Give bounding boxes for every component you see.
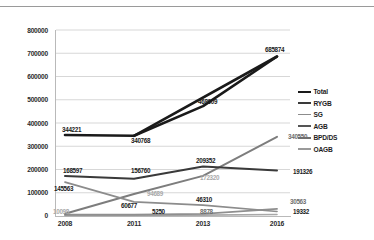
data-label-rygb-2016: 191326 bbox=[293, 168, 312, 175]
data-label-sg-2011: 60677 bbox=[121, 202, 137, 209]
legend-label-bpdds: BPD/DS bbox=[314, 134, 338, 141]
series-line-total bbox=[65, 57, 277, 136]
legend-item-bpdds: BPD/DS bbox=[298, 132, 372, 144]
legend-swatch-oagb bbox=[298, 148, 311, 150]
x-axis-tick-2016: 2016 bbox=[257, 220, 297, 227]
data-label-total-2013: 468609 bbox=[198, 98, 217, 105]
data-label-rygb-2011: 156760 bbox=[131, 167, 150, 174]
chart-legend: Total RYGB SG AGB BPD/DS OAGB bbox=[298, 86, 372, 155]
x-axis-tick-2008: 2008 bbox=[45, 220, 85, 227]
legend-label-rygb: RYGB bbox=[314, 100, 332, 107]
data-label-rygb-2008: 168597 bbox=[63, 167, 82, 174]
legend-item-agb: AGB bbox=[298, 121, 372, 133]
legend-swatch-total bbox=[298, 91, 311, 93]
data-label-sg-2016: 19332 bbox=[293, 208, 309, 215]
x-axis-tick-2011: 2011 bbox=[114, 220, 154, 227]
data-label-total-2016: 685874 bbox=[265, 46, 284, 53]
legend-label-total: Total bbox=[314, 88, 328, 95]
data-label-bpdds-2013: 8878 bbox=[200, 208, 213, 215]
data-label-rygb-2013: 209352 bbox=[196, 157, 215, 164]
legend-swatch-sg bbox=[298, 114, 311, 115]
data-label-total-2008: 344221 bbox=[62, 126, 81, 133]
series-line-agb bbox=[65, 137, 277, 214]
legend-item-total: Total bbox=[298, 86, 372, 98]
legend-swatch-bpdds bbox=[298, 137, 311, 139]
data-label-agb-2011: 94689 bbox=[147, 190, 163, 197]
data-label-sg-2008: 145563 bbox=[54, 185, 73, 192]
legend-item-sg: SG bbox=[298, 109, 372, 121]
data-label-sg-2013: 46310 bbox=[196, 196, 212, 203]
legend-swatch-agb bbox=[298, 125, 311, 127]
legend-label-sg: SG bbox=[314, 111, 323, 118]
page-top-rule bbox=[0, 6, 374, 7]
legend-item-oagb: OAGB bbox=[298, 144, 372, 156]
line-chart: 800000 700000 600000 500000 400000 30000… bbox=[0, 8, 374, 240]
legend-item-rygb: RYGB bbox=[298, 98, 372, 110]
data-label-bpdds-2011: 5250 bbox=[152, 208, 165, 215]
data-label-agb-2008: 10098 bbox=[53, 208, 69, 215]
data-label-agb-2013: 172320 bbox=[200, 174, 219, 181]
data-label-total-2011: 340768 bbox=[131, 137, 150, 144]
legend-label-oagb: OAGB bbox=[314, 146, 333, 153]
series-line-bpdds bbox=[65, 209, 277, 215]
chart-screenshot: 800000 700000 600000 500000 400000 30000… bbox=[0, 0, 374, 240]
data-label-bpdds-2016: 30563 bbox=[290, 198, 306, 205]
legend-label-agb: AGB bbox=[314, 123, 328, 130]
x-axis-tick-2013: 2013 bbox=[183, 220, 223, 227]
series-line-rygb bbox=[65, 166, 277, 178]
series-line-sg bbox=[65, 182, 277, 211]
series-lines bbox=[65, 57, 277, 216]
legend-swatch-rygb bbox=[298, 102, 311, 104]
